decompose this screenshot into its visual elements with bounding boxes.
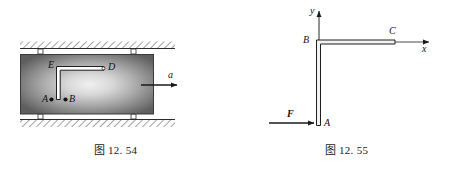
figure-12-54: E D A B a 图 12. 54 (0, 0, 231, 171)
label-acceleration: a (168, 69, 173, 80)
l-shaped-bar-abc (317, 40, 396, 126)
label-point-d: D (108, 61, 115, 72)
point-a-dot (49, 97, 53, 101)
figure-12-55: y x B C A F 图 12. 55 (231, 0, 462, 171)
point-b-dot (63, 97, 67, 101)
point-d-dot (102, 67, 105, 70)
figure-12-55-drawing (231, 0, 462, 141)
figure-12-54-drawing (0, 0, 231, 141)
label-point-b: B (303, 34, 309, 45)
label-axis-x: x (422, 43, 426, 54)
label-force-f: F (287, 108, 294, 119)
label-point-c: C (389, 25, 396, 36)
bottom-fixed-surface (20, 120, 175, 128)
label-point-a: A (42, 93, 48, 104)
figure-12-54-caption: 图 12. 54 (0, 141, 231, 157)
top-fixed-surface (20, 42, 175, 49)
label-point-e: E (48, 59, 54, 70)
label-point-a: A (324, 117, 330, 128)
sliding-block (21, 55, 154, 115)
label-point-b: B (69, 93, 75, 104)
figure-12-55-caption: 图 12. 55 (231, 141, 462, 157)
label-axis-y: y (310, 5, 314, 16)
